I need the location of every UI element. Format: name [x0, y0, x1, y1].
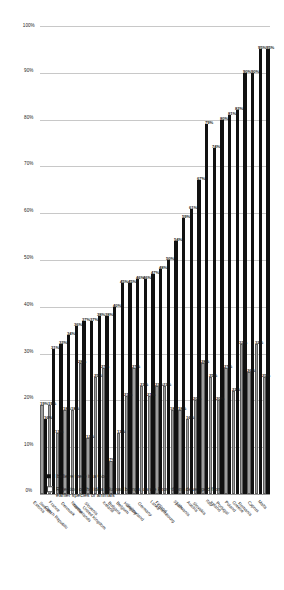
legend-swatch-black	[47, 474, 51, 478]
bar-value-label: 74%	[212, 145, 220, 149]
bar-group: 32%13%	[55, 26, 63, 494]
bar-value-label: 90%	[251, 70, 259, 74]
bar-value-label: 90%	[243, 70, 251, 74]
bar-believe-god	[190, 209, 193, 494]
bar-group: 16%19%	[40, 26, 48, 494]
bar-believe-god	[83, 321, 86, 494]
bar-value-label: 54%	[174, 238, 182, 242]
tick-label-20: 20%	[24, 397, 33, 402]
bar-value-label: 27%	[101, 365, 109, 369]
tick-label-50: 50%	[24, 256, 33, 261]
bar-believe-god	[267, 49, 270, 494]
bar-believe-god	[167, 260, 170, 494]
bar-value-label: 26%	[247, 369, 255, 373]
bar-value-label: 59%	[182, 215, 190, 219]
bar-value-label: 25%	[94, 374, 102, 378]
bar-value-label: 38%	[97, 313, 105, 317]
bar-value-label: 82%	[235, 107, 243, 111]
bar-value-label: 46%	[136, 276, 144, 280]
bar-group: 79%28%	[201, 26, 209, 494]
bar-group: 82%22%	[232, 26, 240, 494]
bar-believe-god	[236, 110, 239, 494]
bar-group: 31%19%	[48, 26, 56, 494]
bar-value-label: 13%	[117, 430, 125, 434]
bar-value-label: 16%	[186, 416, 194, 420]
bar-value-label: 34%	[67, 332, 75, 336]
bar-value-label: 20%	[193, 397, 201, 401]
bar-group: 34%18%	[63, 26, 71, 494]
bar-value-label: 27%	[132, 365, 140, 369]
bar-group: 90%26%	[247, 26, 255, 494]
bar-believe-god	[113, 307, 116, 494]
plot-area: 95%25%95%32%90%26%90%32%82%22%81%27%80%2…	[40, 26, 270, 494]
bar-value-label: 22%	[232, 388, 240, 392]
rotated-chart-wrapper: 95%25%95%32%90%26%90%32%82%22%81%27%80%2…	[0, 0, 284, 590]
bar-value-label: 23%	[140, 383, 148, 387]
bar-value-label: 95%	[266, 46, 274, 50]
bar-value-label: 81%	[228, 112, 236, 116]
bar-value-label: 45%	[128, 280, 136, 284]
bar-believe-god	[175, 241, 178, 494]
tick-label-10: 10%	[24, 443, 33, 448]
bar-value-label: 38%	[105, 313, 113, 317]
tick-label-80: 80%	[24, 116, 33, 121]
bar-believe-god	[106, 316, 109, 494]
bar-value-label: 19%	[40, 402, 48, 406]
bar-believe-god	[121, 283, 124, 494]
bar-reject-evolution	[240, 344, 243, 494]
tick-label-70: 70%	[24, 163, 33, 168]
bar-value-label: 18%	[63, 407, 71, 411]
legend-swatch-gray	[47, 486, 53, 492]
bar-believe-god	[136, 279, 139, 494]
bar-value-label: 79%	[205, 121, 213, 125]
legend-item-1: I believe there is a God	[47, 473, 237, 480]
bar-reject-evolution	[41, 405, 44, 494]
bar-believe-god	[205, 124, 208, 494]
legend-label: I believe there is a God	[54, 473, 107, 480]
bar-value-label: 23%	[155, 383, 163, 387]
bar-value-label: 45%	[120, 280, 128, 284]
bar-value-label: 50%	[166, 257, 174, 261]
bar-value-label: 12%	[86, 435, 94, 439]
tick-label-90: 90%	[24, 69, 33, 74]
bar-believe-god	[228, 115, 231, 494]
legend-item-2: Rejection of the idea "Human beings, as …	[47, 486, 237, 499]
bar-value-label: 21%	[124, 393, 132, 397]
bar-value-label: 27%	[224, 365, 232, 369]
bar-group: 48%23%	[155, 26, 163, 494]
bar-believe-god	[98, 316, 101, 494]
bar-believe-god	[67, 335, 70, 494]
bar-value-label: 46%	[143, 276, 151, 280]
bar-value-label: 32%	[59, 341, 67, 345]
bar-value-label: 18%	[178, 407, 186, 411]
bar-believe-god	[52, 349, 55, 494]
bar-value-label: 28%	[201, 360, 209, 364]
bar-group: 40%7%	[109, 26, 117, 494]
legend-label: Rejection of the idea "Human beings, as …	[56, 486, 237, 499]
bar-value-label: 80%	[220, 116, 228, 120]
bar-value-label: 7%	[109, 458, 115, 462]
bar-believe-god	[244, 73, 247, 494]
bar-group: 50%23%	[163, 26, 171, 494]
bar-value-label: 25%	[209, 374, 217, 378]
bar-value-label: 19%	[48, 402, 56, 406]
bar-value-label: 28%	[78, 360, 86, 364]
bar-value-label: 36%	[74, 322, 82, 326]
bar-group: 38%27%	[101, 26, 109, 494]
bar-believe-god	[182, 218, 185, 494]
bar-group: 37%12%	[86, 26, 94, 494]
chart-card: 95%25%95%32%90%26%90%32%82%22%81%27%80%2…	[0, 0, 284, 590]
bar-value-label: 20%	[216, 397, 224, 401]
bar-value-label: 95%	[258, 46, 266, 50]
bar-group: 74%25%	[209, 26, 217, 494]
tick-label-100: 100%	[23, 24, 35, 29]
bar-value-label: 32%	[239, 341, 247, 345]
bar-group: 46%23%	[140, 26, 148, 494]
bar-believe-god	[221, 120, 224, 494]
plot-inner: 95%25%95%32%90%26%90%32%82%22%81%27%80%2…	[40, 26, 270, 494]
bar-believe-god	[152, 274, 155, 494]
bar-reject-evolution	[248, 372, 251, 494]
bar-value-label: 31%	[51, 346, 59, 350]
bar-value-label: 37%	[90, 318, 98, 322]
bar-group: 80%20%	[216, 26, 224, 494]
